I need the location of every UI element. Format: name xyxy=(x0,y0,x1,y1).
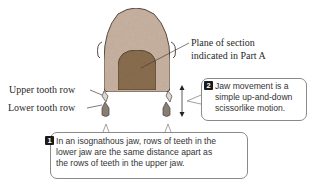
upper-tooth-left xyxy=(102,91,108,102)
plane-of-section xyxy=(118,50,156,90)
lower-tooth-left xyxy=(102,102,109,117)
callout-jaw-movement: 2Jaw movement is a simple up-and-down sc… xyxy=(201,78,307,121)
lower-tooth-row-label: Lower tooth row xyxy=(8,102,75,114)
upper-tooth-row-label: Upper tooth row xyxy=(9,84,75,96)
callout-number-badge: 1 xyxy=(45,136,54,145)
callout-isognathous-jaw: 1In an isognathous jaw, rows of teeth in… xyxy=(50,132,248,179)
plane-of-section-label-line1: Plane of section xyxy=(191,37,255,49)
jaw-diagram: Plane of section indicated in Part A Upp… xyxy=(0,0,313,188)
lower-tooth-right xyxy=(163,102,170,117)
left-side-bump xyxy=(98,42,103,58)
plane-of-section-label-line2: indicated in Part A xyxy=(191,50,266,62)
callout-number-badge: 2 xyxy=(204,81,213,90)
upper-tooth-right xyxy=(166,91,172,102)
